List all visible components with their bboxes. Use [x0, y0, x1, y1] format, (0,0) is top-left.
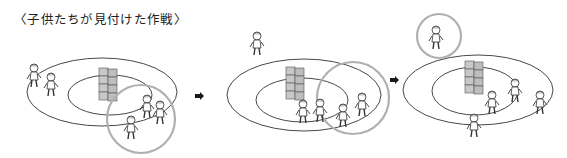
- child-figure: [467, 114, 481, 137]
- child-figure: [533, 91, 547, 114]
- child-figure: [153, 101, 167, 124]
- child-figure: [124, 116, 138, 139]
- arrow-right-icon: [195, 92, 204, 100]
- child-figure: [296, 100, 310, 123]
- child-figure: [429, 26, 443, 49]
- child-figure: [508, 79, 522, 102]
- child-figure: [355, 93, 369, 116]
- child-figure: [336, 104, 350, 127]
- panel-2: [227, 32, 389, 134]
- arrow-right-icon: [390, 76, 399, 84]
- strategy-illustration: [0, 0, 567, 158]
- panel-1: [27, 58, 177, 153]
- block-stack-icon: [99, 68, 117, 101]
- child-figure: [44, 73, 58, 96]
- block-stack-icon: [286, 67, 304, 100]
- child-figure: [485, 91, 499, 114]
- block-stack-icon: [465, 61, 483, 94]
- child-figure: [250, 32, 264, 55]
- highlight-circle: [107, 85, 175, 153]
- panel-3: [403, 14, 553, 137]
- child-figure: [313, 99, 327, 122]
